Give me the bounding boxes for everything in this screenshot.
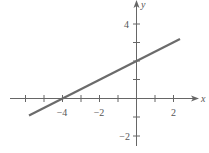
y-tick-label: 4 [124,19,129,30]
coordinate-plane: x −4 −2 2 y 4 −2 [0,0,209,153]
x-axis-label: x [200,93,206,104]
y-axis: y 4 −2 [119,0,146,146]
x-tick-label: 2 [171,107,176,118]
x-tick-label: −2 [94,107,105,118]
x-axis: x −4 −2 2 [10,93,206,118]
y-tick-label: −2 [119,131,130,142]
y-axis-label: y [140,0,146,10]
x-tick-label: −4 [57,107,68,118]
line-series [29,39,180,116]
